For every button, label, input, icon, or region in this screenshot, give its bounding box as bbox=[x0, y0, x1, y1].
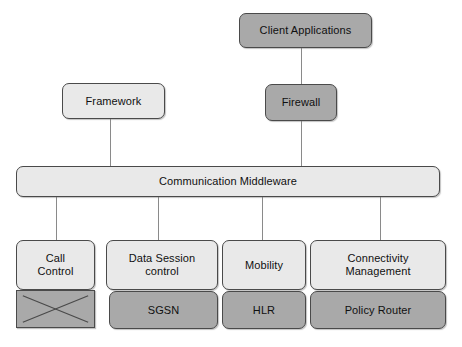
node-connectivity-management-label: Connectivity Management bbox=[342, 252, 413, 278]
node-hlr[interactable]: HLR bbox=[222, 291, 306, 329]
connector-middleware-to-mobility bbox=[262, 197, 263, 241]
connector-middleware-to-call-control bbox=[56, 197, 57, 241]
node-firewall-label: Firewall bbox=[279, 96, 324, 109]
node-policy-router[interactable]: Policy Router bbox=[310, 291, 446, 329]
node-policy-router-label: Policy Router bbox=[342, 304, 415, 317]
node-call-control[interactable]: Call Control bbox=[16, 240, 95, 290]
node-framework[interactable]: Framework bbox=[62, 83, 165, 119]
architecture-diagram: Client Applications Framework Firewall C… bbox=[0, 0, 462, 347]
connector-framework-to-middleware bbox=[110, 119, 111, 167]
node-mobility-label: Mobility bbox=[242, 259, 286, 272]
node-client-applications[interactable]: Client Applications bbox=[239, 13, 372, 48]
node-sgsn-label: SGSN bbox=[145, 304, 183, 317]
node-connectivity-management[interactable]: Connectivity Management bbox=[310, 240, 446, 290]
node-client-applications-label: Client Applications bbox=[257, 24, 355, 37]
node-sgsn[interactable]: SGSN bbox=[109, 291, 218, 329]
node-call-control-crossed-out[interactable] bbox=[16, 290, 95, 328]
node-firewall[interactable]: Firewall bbox=[265, 84, 337, 121]
node-mobility[interactable]: Mobility bbox=[222, 240, 306, 290]
node-data-session-control-label: Data Session control bbox=[126, 252, 199, 278]
cross-out-icon bbox=[17, 291, 94, 327]
node-hlr-label: HLR bbox=[250, 304, 278, 317]
connector-client-applications-to-firewall bbox=[301, 48, 302, 85]
node-framework-label: Framework bbox=[83, 95, 145, 108]
node-communication-middleware[interactable]: Communication Middleware bbox=[16, 166, 440, 197]
connector-middleware-to-data-session-control bbox=[158, 197, 159, 241]
node-communication-middleware-label: Communication Middleware bbox=[156, 175, 300, 188]
connector-firewall-to-middleware bbox=[301, 121, 302, 167]
node-call-control-label: Call Control bbox=[34, 252, 76, 278]
connector-middleware-to-connectivity-management bbox=[380, 197, 381, 241]
node-data-session-control[interactable]: Data Session control bbox=[106, 240, 218, 290]
